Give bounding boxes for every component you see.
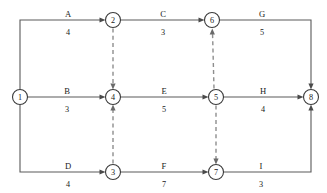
edge-b-arrowhead	[100, 94, 106, 99]
edge-c-name: C	[160, 9, 166, 19]
edge-g-name: G	[259, 9, 265, 19]
node-7-label: 7	[214, 168, 218, 177]
edge-i-arrowhead	[308, 105, 313, 111]
edge-g-duration: 5	[260, 28, 264, 37]
edge-g-arrowhead	[308, 84, 313, 90]
dummy-edge-2-4-arrowhead	[110, 84, 115, 90]
node-5-label: 5	[214, 93, 218, 102]
edge-a-arrowhead	[100, 17, 106, 22]
edge-e-duration: 5	[162, 105, 166, 114]
edge-c-arrowhead	[199, 17, 205, 22]
edge-d-arrowhead	[100, 169, 106, 174]
node-1-label: 1	[18, 93, 22, 102]
edge-h-arrowhead	[298, 94, 304, 99]
edge-h-name: H	[260, 86, 266, 96]
node-2-label: 2	[111, 16, 115, 25]
edge-d-duration: 4	[66, 180, 70, 189]
node-8-label: 8	[309, 93, 313, 102]
edge-i-path	[224, 108, 312, 173]
node-2[interactable]: 2	[106, 13, 121, 28]
node-1[interactable]: 1	[13, 90, 28, 105]
dummy-edge-5-6-path	[213, 32, 215, 89]
edge-a-duration: 4	[66, 28, 70, 37]
dummy-edge-3-4-arrowhead	[110, 105, 115, 111]
edge-d-path	[20, 105, 103, 173]
dummy-edge-5-6-arrowhead	[210, 29, 215, 35]
edge-i	[224, 105, 314, 173]
edge-g-path	[220, 20, 312, 87]
edge-i-name: I	[260, 161, 263, 171]
dummy-edge-3-4	[110, 105, 115, 164]
edge-i-duration: 3	[259, 180, 263, 189]
edge-e-arrowhead	[203, 94, 209, 99]
node-4[interactable]: 4	[106, 90, 121, 105]
node-3[interactable]: 3	[106, 165, 121, 180]
edge-d-name: D	[65, 161, 71, 171]
node-4-label: 4	[111, 93, 115, 102]
edge-a-name: A	[65, 9, 72, 19]
edge-f-arrowhead	[203, 169, 209, 174]
edge-g	[220, 20, 314, 90]
dummy-edge-5-7	[213, 106, 218, 165]
network-diagram-canvas: 1 2 3 4 5 6 7 8	[0, 0, 327, 193]
edge-h-duration: 4	[261, 105, 265, 114]
dummy-edge-5-7-arrowhead	[213, 159, 218, 165]
dummy-edge-5-6	[210, 29, 215, 89]
edge-a	[20, 17, 106, 89]
dummy-edge-2-4	[110, 29, 115, 90]
node-6[interactable]: 6	[205, 13, 220, 28]
edge-b-name: B	[64, 86, 70, 96]
edge-b-duration: 3	[65, 105, 69, 114]
node-5[interactable]: 5	[209, 90, 224, 105]
edge-a-path	[20, 20, 103, 90]
edge-f-name: F	[162, 161, 167, 171]
edge-d	[20, 105, 106, 175]
network-diagram: 1 2 3 4 5 6 7 8	[0, 0, 327, 193]
node-3-label: 3	[111, 168, 115, 177]
edge-e-name: E	[161, 86, 166, 96]
edge-c-duration: 3	[161, 28, 165, 37]
node-6-label: 6	[210, 16, 214, 25]
node-8[interactable]: 8	[304, 90, 319, 105]
edge-f-duration: 7	[162, 180, 166, 189]
node-7[interactable]: 7	[209, 165, 224, 180]
